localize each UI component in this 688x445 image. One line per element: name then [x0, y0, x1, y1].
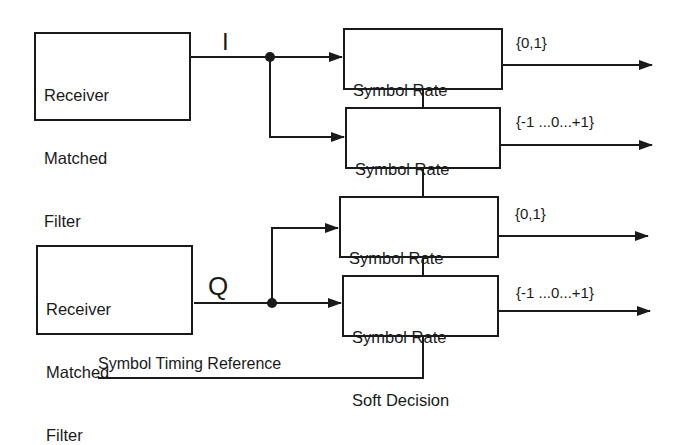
- decision-label-line2: Soft Decision: [352, 390, 449, 411]
- decision-label-line1: Symbol Rate: [349, 248, 453, 269]
- output-label-q-soft: {-1 ...0...+1}: [516, 284, 594, 301]
- decision-block-i-soft: Symbol Rate Soft Decision: [345, 107, 501, 169]
- output-label-i-soft: {-1 ...0...+1}: [516, 113, 594, 130]
- junction-dot-q: [267, 298, 277, 308]
- receiver-matched-filter-q: Receiver Matched Filter: [36, 245, 193, 335]
- filter-label-line: Filter: [44, 211, 109, 232]
- channel-label-q: Q: [208, 271, 228, 302]
- channel-label-i: I: [222, 28, 229, 56]
- decision-label-line1: Symbol Rate: [352, 327, 449, 348]
- decision-label-line1: Symbol Rate: [355, 159, 452, 180]
- decision-label-line1: Symbol Rate: [353, 80, 457, 101]
- timing-reference-label: Symbol Timing Reference: [98, 355, 281, 373]
- filter-label-line: Receiver: [46, 299, 111, 320]
- decision-block-q-hard: Symbol Rate Hard Decision: [339, 196, 499, 258]
- filter-label-line: Filter: [46, 425, 111, 445]
- receiver-matched-filter-i: Receiver Matched Filter: [34, 32, 191, 121]
- junction-dot-i: [265, 52, 275, 62]
- decision-block-i-hard: Symbol Rate Hard Decision: [343, 28, 503, 90]
- q-to-hard-arrow: [272, 228, 338, 303]
- decision-block-q-soft: Symbol Rate Soft Decision: [342, 275, 499, 337]
- filter-label-line: Receiver: [44, 85, 109, 106]
- i-to-soft-arrow: [270, 57, 344, 137]
- output-label-i-hard: {0,1}: [516, 34, 547, 51]
- filter-label-line: Matched: [44, 148, 109, 169]
- output-label-q-hard: {0,1}: [515, 205, 546, 222]
